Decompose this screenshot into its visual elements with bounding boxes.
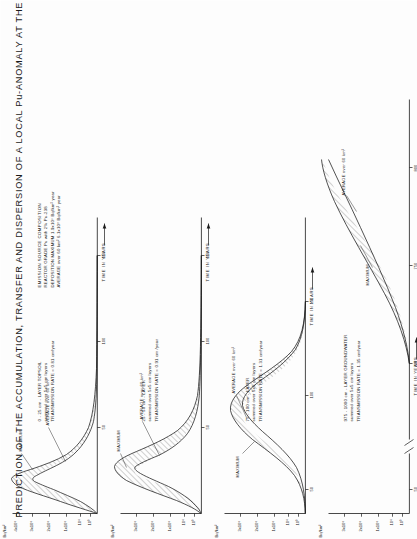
panel-topsoil-ytick-4: 2x10⁵ — [45, 520, 50, 531]
panel-topsoil-average-annotation: AVERAGE over 60 km² — [44, 378, 49, 425]
panel-25-50-ylabel: Bq/km² — [109, 524, 114, 537]
panel-groundwater-ytick-3: 1x10⁵ — [374, 520, 379, 531]
panel-groundwater-plot — [320, 93, 412, 513]
panel-groundwater-average-annotation: AVERAGE over 60 km² — [340, 148, 345, 195]
panel-75-100-maximum-annotation: MAXIMUM — [234, 456, 239, 477]
panel-groundwater-xtick-750: 750 — [412, 262, 417, 269]
panel-25-50-ytick-3: 1x10⁵ — [166, 520, 171, 531]
panel-topsoil-ytick-5: 3x10⁵ — [28, 520, 33, 531]
panel-topsoil: 0 - 25 cm - LAYER TOPSOIL summed over 5x… — [0, 0, 104, 539]
panel-groundwater-axis-break-1 — [404, 447, 413, 453]
panel-25-50-ytick-5: 3x10⁵ — [132, 520, 137, 531]
panel-topsoil-maximum-annotation: MAXIMUM — [17, 430, 22, 451]
panel-groundwater-ytick-2: 10⁴ — [388, 519, 393, 525]
panel-25-50: 25 - 50 cm - LAYER summed over 5x5 cm la… — [104, 0, 208, 539]
panel-75-100-ytick-3: 1x10⁵ — [270, 520, 275, 531]
panel-25-50-average-annotation: AVERAGE over 60 km² — [138, 372, 143, 419]
panel-groundwater-xlabel: TIME IN YEARS — [412, 356, 417, 395]
panel-75-100-average-annotation: AVERAGE over 60 km² — [230, 346, 235, 393]
panel-groundwater: 975 - 1000 cm - LAYER GROUNDWATER summed… — [312, 0, 417, 539]
panel-75-100-ytick-2: 10⁴ — [284, 519, 289, 525]
panel-25-50-ytick-1: 10³ — [190, 519, 195, 525]
panel-topsoil-ylabel: Bq/km² — [1, 524, 6, 537]
panel-groundwater-average-leader — [346, 195, 356, 211]
panel-groundwater-axis-break-2 — [404, 439, 413, 445]
panel-topsoil-ytick-2: 10⁴ — [76, 519, 81, 525]
panel-groundwater-ytick-4: 2x10⁵ — [357, 520, 362, 531]
panel-75-100-hatched-band — [230, 301, 305, 513]
panel-75-100-ytick-5: 3x10⁵ — [236, 520, 241, 531]
panel-75-100-ytick-4: 2x10⁵ — [253, 520, 258, 531]
panel-75-100-average-curve — [242, 301, 305, 513]
panel-topsoil-ytick-6: 4x10⁵ — [12, 520, 17, 531]
rotated-figure-canvas: PREDICTION OF THE ACCUMULATION, TRANSFER… — [0, 0, 417, 539]
panel-topsoil-hatched-band — [11, 255, 97, 513]
panel-25-50-ytick-4: 2x10⁵ — [149, 520, 154, 531]
panel-75-100-maximum-leader — [242, 441, 254, 453]
panel-topsoil-maximum-leader — [21, 453, 32, 469]
panel-25-50-hatched-band — [114, 255, 201, 513]
panel-groundwater-xtick-50: 50 — [412, 486, 417, 491]
panel-groundwater-hatched-band — [321, 159, 409, 363]
panel-75-100-ylabel: Bq/km² — [213, 524, 218, 537]
panel-groundwater-maximum-annotation: MAXIMUM — [364, 264, 369, 285]
panel-25-50-maximum-annotation: MAXIMUM — [115, 430, 120, 451]
panel-25-50-average-curve — [134, 255, 201, 513]
figure-body: PREDICTION OF THE ACCUMULATION, TRANSFER… — [0, 0, 417, 539]
panel-groundwater-ytick-5: 3x10⁵ — [340, 520, 345, 531]
panel-groundwater-ylabel: Bq/km² — [317, 524, 322, 537]
panel-topsoil-ytick-3: 1x10⁵ — [62, 520, 67, 531]
panel-75-100: 75 - 100 cm - LAYER summed over 5x5 cm l… — [208, 0, 312, 539]
panel-75-100-ytick-1: 10³ — [294, 519, 299, 525]
panel-groundwater-ytick-1: 10³ — [398, 519, 403, 525]
panel-topsoil-ytick-1: 10³ — [86, 519, 91, 525]
panel-25-50-ytick-2: 10⁴ — [180, 519, 185, 525]
panel-25-50-plot — [112, 213, 204, 513]
panel-topsoil-average-leader — [48, 427, 65, 461]
panel-topsoil-average-curve — [32, 255, 96, 513]
panel-topsoil-plot — [8, 213, 100, 513]
panel-groundwater-xtick-800: 800 — [412, 164, 417, 171]
